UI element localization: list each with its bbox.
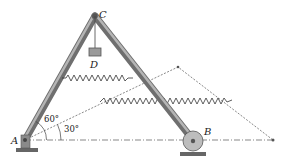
label-a: A bbox=[10, 135, 18, 146]
label-d: D bbox=[89, 59, 98, 70]
label-c: C bbox=[99, 9, 107, 20]
spring-upper bbox=[62, 75, 133, 81]
apex-point bbox=[177, 66, 180, 69]
mechanism-diagram: C D A B 60° 30° bbox=[0, 0, 288, 168]
far-point bbox=[272, 139, 275, 142]
pin-b bbox=[191, 139, 195, 143]
angle-arc-30 bbox=[58, 125, 62, 141]
label-angle-30: 30° bbox=[64, 124, 79, 134]
label-angle-60: 60° bbox=[44, 114, 59, 124]
support-b-base bbox=[180, 152, 206, 156]
block-d bbox=[89, 48, 101, 56]
pin-a bbox=[23, 138, 27, 142]
support-a-base bbox=[16, 148, 38, 152]
label-b: B bbox=[203, 126, 211, 137]
member-bc bbox=[95, 16, 193, 140]
